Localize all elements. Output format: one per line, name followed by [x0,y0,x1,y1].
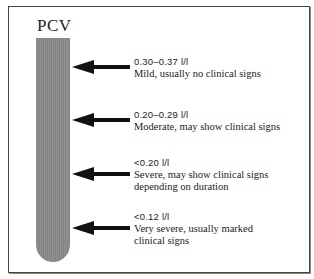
pcv-title: PCV [37,16,72,36]
level-description: Very severe, usually marked clinical sig… [134,223,284,247]
arrow-left-icon [72,167,130,181]
level-description: Mild, usually no clinical signs [134,68,310,80]
level-description: Severe, may show clinical signs dependin… [134,169,294,193]
level-description: Moderate, may show clinical signs [134,121,310,133]
arrow-left-icon [72,221,130,235]
arrow-left-icon [72,60,130,74]
level-very-severe: <0.12 l/l Very severe, usually marked cl… [134,211,284,247]
level-range: 0.20–0.29 l/l [134,109,188,120]
level-range: 0.30–0.37 l/l [134,56,188,67]
pcv-tube [36,38,70,262]
level-moderate: 0.20–0.29 l/l Moderate, may show clinica… [134,109,310,133]
level-range: <0.20 l/l [134,157,169,168]
level-mild: 0.30–0.37 l/l Mild, usually no clinical … [134,56,310,80]
level-range: <0.12 l/l [134,211,169,222]
arrow-left-icon [72,113,130,127]
level-severe: <0.20 l/l Severe, may show clinical sign… [134,157,294,193]
